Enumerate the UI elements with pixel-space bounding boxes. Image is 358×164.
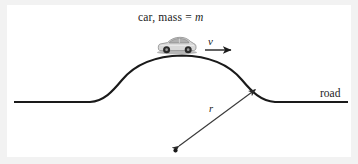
velocity-symbol-label: v bbox=[208, 36, 213, 47]
car-rear-hub bbox=[165, 48, 168, 51]
radius-symbol-label: r bbox=[209, 104, 213, 115]
circle-center-dot bbox=[173, 148, 177, 152]
road-text-label: road bbox=[320, 88, 340, 100]
diagram-canvas bbox=[0, 0, 358, 164]
caption-mass-symbol: m bbox=[195, 11, 204, 23]
car-front-hub bbox=[187, 48, 190, 51]
car-mass-caption: car, mass = m bbox=[138, 12, 203, 24]
caption-prefix-text: car, mass = bbox=[138, 11, 195, 23]
physics-diagram-figure: car, mass = m v r road bbox=[0, 0, 358, 164]
radius-arrow-line bbox=[179, 90, 256, 147]
car-illustration bbox=[157, 37, 197, 54]
